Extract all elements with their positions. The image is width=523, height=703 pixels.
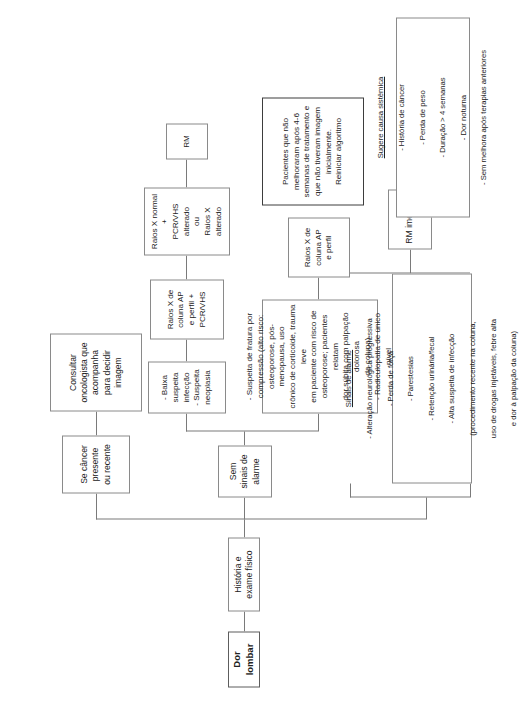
panel-alarm-signs-header: Sinais de alarme (344, 318, 354, 439)
node-history-exam[interactable]: História e exame físico (228, 537, 260, 611)
connector-noalarm-split (244, 431, 245, 445)
connector-fracture-xrayap (318, 277, 319, 299)
panel-alarm-signs-item: - Perda de força (386, 318, 396, 439)
node-xray-pcr-vhs[interactable]: Raios X de coluna AP e perfil + PCR/VHS (150, 279, 224, 339)
connector-fracture (318, 413, 319, 431)
node-low-suspicion[interactable]: - Baixa suspeita infecção - Suspeita neo… (148, 361, 226, 413)
connector-trunk-alarm (426, 497, 427, 519)
node-root[interactable]: Dor lombar (228, 631, 260, 687)
note-restart-algorithm: Pacientes que não melhoraram após 4-6 se… (262, 97, 364, 205)
node-mri[interactable]: RM (166, 123, 208, 159)
connector-trunk-cancer (96, 493, 97, 519)
connector-history-trunk (244, 519, 245, 537)
connector-alarm-top (350, 483, 351, 497)
panel-alarm-signs: Sinais de alarme - Alteração neurológica… (392, 273, 472, 483)
connector-alarm-vertical (350, 496, 470, 497)
connector-trunk-noalarm (244, 497, 245, 519)
panel-systemic-cause-item: - Dor noturna (459, 49, 469, 184)
node-xray-or-pcr-abnormal[interactable]: Raios X normal + PCR/VHS alterado ou Rai… (144, 187, 230, 255)
panel-alarm-signs-item: - Parestesias (406, 318, 416, 439)
panel-systemic-cause-item: - Sem melhora após terapias anteriores (479, 49, 489, 184)
node-xray-ap-profile[interactable]: Raios X de coluna AP e perfil (288, 217, 350, 277)
node-cancer-branch[interactable]: Se câncer presente ou recente (62, 435, 130, 493)
connector-lowsusp (186, 413, 187, 431)
panel-alarm-signs-item: - Retenção urinária/fecal (427, 318, 437, 439)
panel-systemic-cause-item: - Perda de peso (418, 49, 428, 184)
panel-alarm-signs-item: - Alta suspeita de infecção (447, 318, 457, 439)
connector-main-trunk (96, 518, 426, 519)
connector-alarm-panel (470, 483, 471, 497)
connector-abnormal-mri (186, 159, 187, 187)
connector-alarm-mri (410, 249, 411, 273)
connector-lowsusp-xray (186, 339, 187, 361)
panel-alarm-signs-item: uso de drogas injetáveis, febre alta (489, 318, 499, 439)
panel-systemic-cause: Sugere causa sistêmica - História de cân… (396, 17, 470, 217)
connector-noalarm-vertical (186, 430, 318, 431)
panel-alarm-signs-item: - Alteração neurológica progressiva (365, 318, 375, 439)
panel-systemic-cause-header: Sugere causa sistêmica (376, 49, 386, 184)
panel-alarm-signs-item: (procedimento recente na coluna, (468, 318, 478, 439)
node-no-alarm-signs[interactable]: Sem sinais de alarme (218, 445, 272, 497)
panel-systemic-cause-item: - História de câncer (397, 49, 407, 184)
panel-systemic-cause-item: - Duração > 4 semanas (438, 49, 448, 184)
connector-cancer-onco (96, 411, 97, 435)
connector-root-history (244, 611, 245, 631)
connector-xray-abnormal (186, 255, 187, 279)
node-consult-oncologist[interactable]: Consultar oncologista que acompanha para… (50, 333, 142, 411)
panel-alarm-signs-item: e dor à palpação da coluna) (509, 318, 519, 439)
